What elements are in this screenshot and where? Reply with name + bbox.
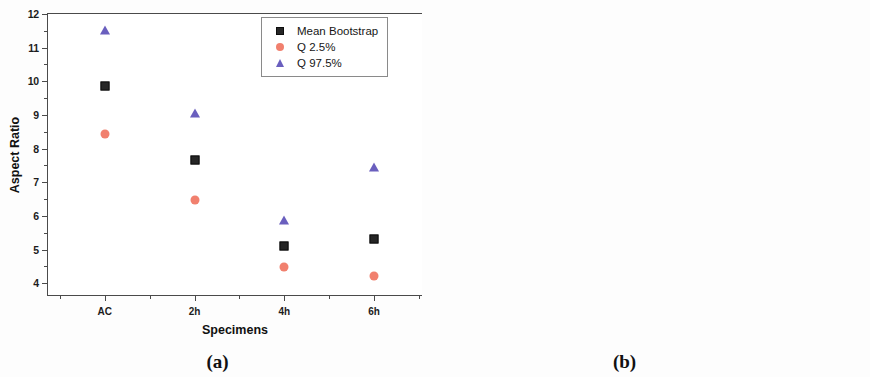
- y-axis-tick: [42, 283, 48, 284]
- y-axis-tick: [42, 182, 48, 183]
- x-axis-tick-label: 2h: [189, 306, 201, 317]
- y-axis-tick: [42, 216, 48, 217]
- y-axis-tick-label: 4: [33, 277, 39, 289]
- y-axis-tick: [42, 149, 48, 150]
- y-axis-tick: [42, 115, 48, 116]
- y-axis-minor-tick: [44, 165, 48, 166]
- y-axis-minor-tick: [44, 98, 48, 99]
- y-axis-minor-tick: [44, 64, 48, 65]
- x-axis-minor-tick: [150, 295, 151, 299]
- data-point-square: [100, 82, 109, 91]
- data-point-square: [190, 156, 199, 165]
- y-axis-tick-label: 8: [33, 143, 39, 155]
- data-point-triangle: [279, 215, 289, 224]
- triangle-marker-icon: [269, 59, 291, 67]
- x-axis-minor-tick: [419, 295, 420, 299]
- x-axis-tick: [195, 295, 196, 301]
- y-axis-tick-label: 6: [33, 210, 39, 222]
- x-axis-tick: [284, 295, 285, 301]
- y-axis-minor-tick: [44, 199, 48, 200]
- legend-entry: Mean Bootstrap: [269, 23, 378, 39]
- y-axis-tick: [42, 250, 48, 251]
- data-point-circle: [280, 263, 289, 272]
- legend-a: Mean Bootstrap Q 2.5% Q 97.5%: [261, 17, 388, 77]
- x-axis-minor-tick: [239, 295, 240, 299]
- y-axis-tick: [42, 14, 48, 15]
- x-axis-tick: [105, 295, 106, 301]
- panel-b: Feret (µm) Specimens Mean Bootstrap Q 2.…: [435, 0, 870, 377]
- y-axis-minor-tick: [44, 31, 48, 32]
- y-axis-tick-label: 9: [33, 109, 39, 121]
- y-axis-tick-label: 11: [28, 42, 39, 54]
- data-point-square: [370, 235, 379, 244]
- y-axis-tick-label: 5: [33, 244, 39, 256]
- panel-a: Aspect Ratio Specimens Mean Bootstrap Q …: [0, 0, 435, 377]
- y-axis-tick: [42, 81, 48, 82]
- data-point-triangle: [190, 109, 200, 118]
- square-marker-icon: [269, 27, 291, 35]
- data-point-triangle: [369, 163, 379, 172]
- x-axis-tick-label: 6h: [368, 306, 380, 317]
- legend-label: Q 97.5%: [297, 57, 342, 69]
- data-point-triangle: [100, 26, 110, 35]
- data-point-circle: [100, 130, 109, 139]
- panel-caption-b: (b): [407, 351, 842, 373]
- y-axis-minor-tick: [44, 266, 48, 267]
- data-point-square: [280, 242, 289, 251]
- legend-label: Mean Bootstrap: [297, 25, 378, 37]
- figure-page: Aspect Ratio Specimens Mean Bootstrap Q …: [0, 0, 870, 377]
- data-point-circle: [190, 196, 199, 205]
- plot-area-a: Aspect Ratio Specimens Mean Bootstrap Q …: [47, 13, 422, 296]
- legend-label: Q 2.5%: [297, 41, 335, 53]
- y-axis-minor-tick: [44, 132, 48, 133]
- y-axis-minor-tick: [44, 233, 48, 234]
- y-axis-tick-label: 12: [28, 8, 39, 20]
- x-axis-tick-label: 4h: [279, 306, 291, 317]
- x-axis-minor-tick: [329, 295, 330, 299]
- x-axis-tick: [374, 295, 375, 301]
- x-axis-tick-label: AC: [98, 306, 112, 317]
- y-axis-tick-label: 7: [33, 176, 39, 188]
- data-point-circle: [370, 271, 379, 280]
- legend-entry: Q 97.5%: [269, 55, 378, 71]
- x-axis-title-a: Specimens: [202, 323, 268, 337]
- legend-entry: Q 2.5%: [269, 39, 378, 55]
- x-axis-minor-tick: [60, 295, 61, 299]
- y-axis-title-a: Aspect Ratio: [8, 116, 22, 192]
- circle-marker-icon: [269, 43, 291, 51]
- y-axis-tick: [42, 48, 48, 49]
- panel-caption-a: (a): [0, 351, 435, 373]
- y-axis-tick-label: 10: [28, 75, 39, 87]
